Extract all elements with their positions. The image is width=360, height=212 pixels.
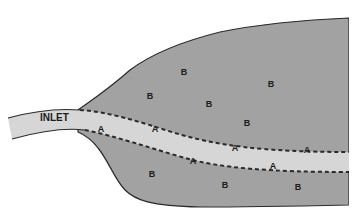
basin-zone-b xyxy=(78,18,349,207)
zone-b-label: B xyxy=(295,182,302,192)
zone-b-label: B xyxy=(149,169,156,179)
zone-a-label: A xyxy=(190,156,197,166)
right-margin xyxy=(349,0,360,212)
zone-b-label: B xyxy=(147,91,154,101)
zone-b-label: B xyxy=(244,118,251,128)
inlet-label: INLET xyxy=(40,112,69,123)
zone-b-label: B xyxy=(181,67,188,77)
diagram-canvas: INLET A A A A A A B B B B B B B B xyxy=(0,0,360,212)
zone-b-label: B xyxy=(206,99,213,109)
zone-a-label: A xyxy=(304,145,311,155)
zone-a-label: A xyxy=(270,161,277,171)
zone-a-label: A xyxy=(232,143,239,153)
zone-a-label: A xyxy=(98,124,105,134)
estuary-diagram: INLET A A A A A A B B B B B B B B xyxy=(0,0,360,212)
zone-b-label: B xyxy=(222,180,229,190)
zone-a-label: A xyxy=(152,124,159,134)
zone-b-label: B xyxy=(268,79,275,89)
